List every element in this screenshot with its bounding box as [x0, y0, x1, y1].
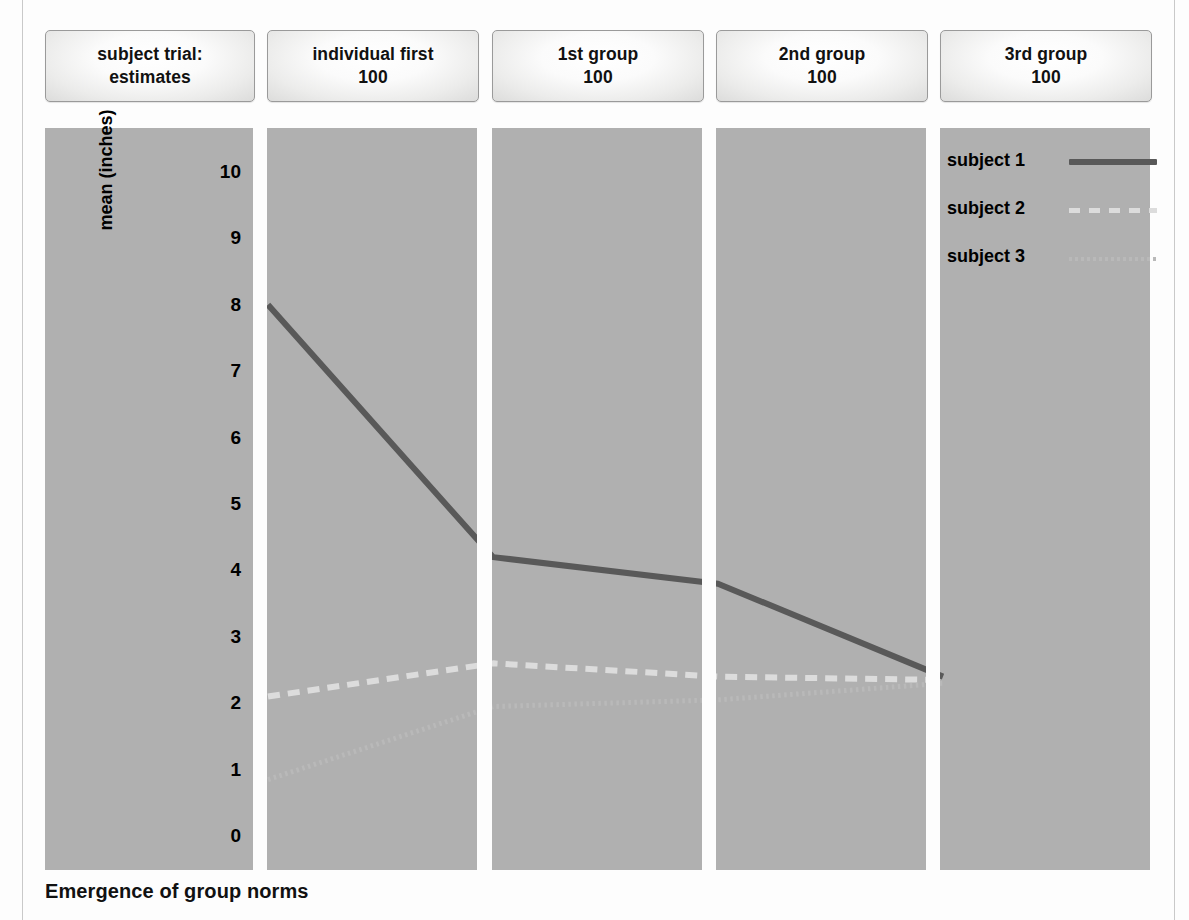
legend-entry-subject-3[interactable]: subject 3	[947, 246, 1162, 294]
legend-swatch-dashed-icon	[1069, 208, 1157, 213]
legend: subject 1 subject 2 subject 3	[947, 150, 1162, 294]
legend-entry-subject-1[interactable]: subject 1	[947, 150, 1162, 198]
y-tick-label-2: 2	[195, 692, 241, 714]
panel-2nd-group	[716, 128, 926, 870]
y-tick-label-5: 5	[195, 493, 241, 515]
y-tick-label-1: 1	[195, 759, 241, 781]
figure-caption: Emergence of group norms	[45, 880, 309, 903]
y-axis-title: mean (inches)	[96, 40, 117, 300]
y-tick-label-10: 10	[195, 161, 241, 183]
panel-1st-group	[492, 128, 702, 870]
legend-swatch-dotted-icon	[1069, 257, 1157, 261]
legend-swatch-solid-icon	[1069, 159, 1157, 165]
y-tick-label-8: 8	[195, 294, 241, 316]
y-tick-label-9: 9	[195, 227, 241, 249]
plot-panels: 109876543210 mean (inches)	[0, 0, 1189, 920]
legend-label: subject 1	[947, 150, 1025, 171]
legend-entry-subject-2[interactable]: subject 2	[947, 198, 1162, 246]
figure-container: subject trial: estimates individual firs…	[0, 0, 1189, 920]
y-tick-label-6: 6	[195, 427, 241, 449]
y-tick-label-4: 4	[195, 559, 241, 581]
legend-label: subject 2	[947, 198, 1025, 219]
y-tick-label-7: 7	[195, 360, 241, 382]
panel-individual-first	[267, 128, 477, 870]
legend-label: subject 3	[947, 246, 1025, 267]
y-tick-label-3: 3	[195, 626, 241, 648]
y-tick-label-0: 0	[195, 825, 241, 847]
